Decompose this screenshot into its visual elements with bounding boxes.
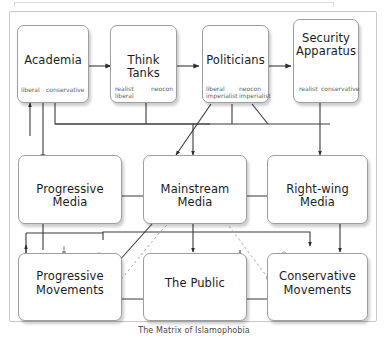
figure-caption: The Matrix of Islamophobia <box>0 326 388 335</box>
node-mainstream-media[interactable]: Mainstream Media <box>143 155 247 224</box>
node-think-tanks-leaf-realist-liberal-line2: liberal <box>115 92 134 99</box>
node-progressive-movements[interactable]: Progressive Movements <box>18 253 122 321</box>
node-academia-leaf-liberal: liberal <box>21 86 40 93</box>
node-politicians-title: Politicians <box>203 54 268 67</box>
node-politicians-leaf-liberal-imperialist-line1: liberal <box>206 85 225 92</box>
node-academia-leaf-conservative: conservative <box>46 86 85 93</box>
node-conservative-movements[interactable]: Conservative Movements <box>267 253 368 321</box>
node-progressive-media[interactable]: Progressive Media <box>18 155 122 224</box>
node-conservative-movements-title-line1: Conservative <box>268 270 367 284</box>
node-mainstream-media-title: Mainstream Media <box>144 183 246 209</box>
node-academia-title: Academia <box>18 54 88 67</box>
node-politicians[interactable]: Politicians liberal imperialist neocon i… <box>202 25 269 103</box>
node-rightwing-media-title: Right-wing Media <box>268 183 367 209</box>
node-think-tanks-title: Think Tanks <box>111 54 176 80</box>
node-think-tanks[interactable]: Think Tanks realist liberal neocon <box>110 25 177 103</box>
node-progressive-media-title: Progressive Media <box>19 183 121 209</box>
node-progressive-movements-title-line1: Progressive <box>19 270 121 284</box>
node-academia[interactable]: Academia liberal conservative <box>17 25 89 103</box>
node-the-public-title: The Public <box>144 277 246 290</box>
node-security-apparatus-title-line2: Apparatus <box>294 45 358 59</box>
node-progressive-movements-title-line2: Movements <box>19 284 121 298</box>
node-the-public[interactable]: The Public <box>143 253 247 321</box>
node-rightwing-media[interactable]: Right-wing Media <box>267 155 368 224</box>
matrix-of-islamophobia-figure: Academia liberal conservative Think Tank… <box>0 0 388 345</box>
node-politicians-leaf-neocon-imperialist-line2: imperialist <box>239 92 271 99</box>
node-security-apparatus-leaf-realist: realist <box>299 85 318 92</box>
node-conservative-movements-title-line2: Movements <box>268 284 367 298</box>
node-politicians-leaf-neocon-imperialist-line1: neocon <box>239 85 261 92</box>
node-security-apparatus[interactable]: Security Apparatus realist conservative <box>293 19 359 103</box>
node-politicians-leaf-liberal-imperialist-line2: imperialist <box>206 92 238 99</box>
node-think-tanks-leaf-neocon: neocon <box>151 85 173 92</box>
node-security-apparatus-leaf-conservative: conservative <box>321 85 360 92</box>
node-think-tanks-leaf-realist-liberal-line1: realist <box>115 85 134 92</box>
